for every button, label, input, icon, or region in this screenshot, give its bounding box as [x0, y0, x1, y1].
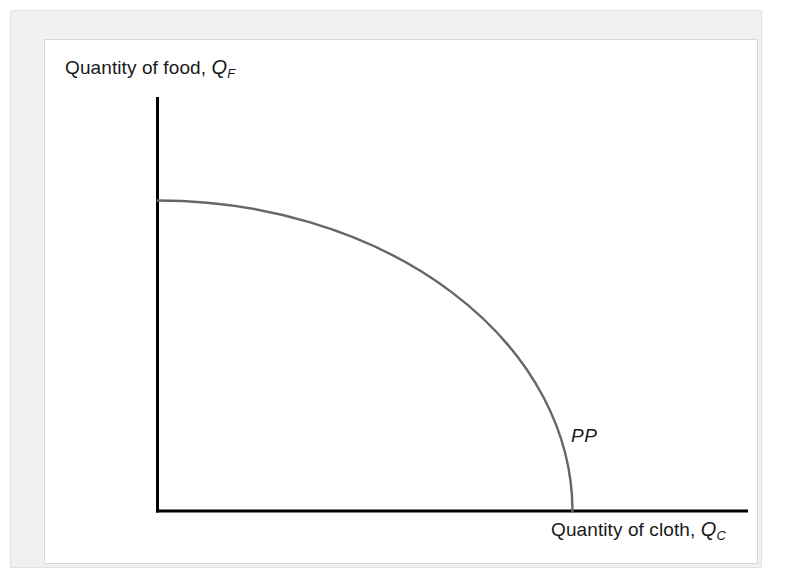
x-axis-symbol: QC — [701, 518, 726, 540]
x-axis-subscript: C — [716, 528, 726, 543]
y-axis-label: Quantity of food, QF — [65, 56, 235, 79]
x-axis-label-text: Quantity of cloth, — [551, 519, 701, 540]
x-axis-label: Quantity of cloth, QC — [551, 518, 726, 541]
ppf-curve-label: PP — [571, 425, 597, 447]
y-axis-label-text: Quantity of food, — [65, 57, 212, 78]
y-axis-symbol-letter: Q — [212, 56, 228, 78]
x-axis-symbol-letter: Q — [701, 518, 717, 540]
figure-panel: Quantity of food, QF Quantity of cloth, … — [44, 39, 758, 564]
figure-outer-frame: Quantity of food, QF Quantity of cloth, … — [10, 10, 762, 568]
plot-area: Quantity of food, QF Quantity of cloth, … — [45, 40, 759, 565]
ppf-chart-svg — [45, 40, 759, 565]
y-axis-symbol: QF — [212, 56, 236, 78]
ppf-curve — [158, 201, 573, 512]
y-axis-subscript: F — [227, 66, 235, 81]
